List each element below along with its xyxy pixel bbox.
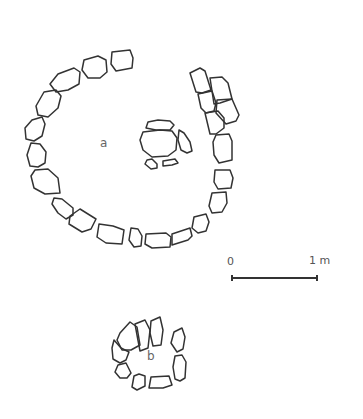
structure-a-outer-ring bbox=[25, 50, 233, 248]
scale-start-label: 0 bbox=[227, 256, 234, 267]
scale-end-label: 1 m bbox=[309, 255, 330, 266]
structure-a-label: a bbox=[100, 137, 107, 149]
scale-bar-line bbox=[232, 277, 317, 279]
site-plan-drawing bbox=[0, 0, 363, 419]
structure-b-label: b bbox=[147, 350, 155, 362]
structure-a-central-feature bbox=[140, 120, 192, 169]
scale-bar-end-tick bbox=[316, 275, 318, 281]
structure-a-right-block bbox=[190, 68, 239, 134]
scale-bar-start-tick bbox=[231, 275, 233, 281]
